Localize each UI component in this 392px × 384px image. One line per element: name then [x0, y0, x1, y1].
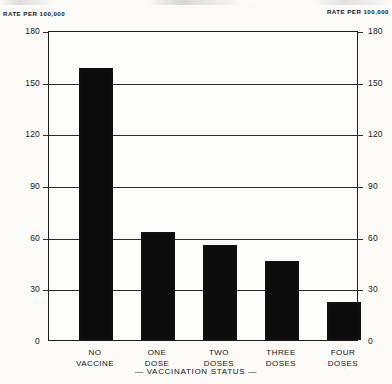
y-tick-label-left: 60 — [10, 233, 40, 243]
y-tick-label-right: 90 — [368, 181, 392, 191]
y-tick-right — [357, 187, 363, 188]
y-tick-left — [43, 290, 49, 291]
bar — [79, 68, 113, 340]
y-tick-label-right: 60 — [368, 233, 392, 243]
y-tick-left — [43, 84, 49, 85]
bar-chart: RATE PER 100,000 RATE PER 100,000 030609… — [0, 0, 392, 384]
x-category-label: THREE DOSES — [250, 348, 312, 369]
y-tick-left — [43, 135, 49, 136]
y-tick-label-left: 120 — [10, 129, 40, 139]
y-tick-label-right: 0 — [368, 336, 392, 346]
y-tick-left — [43, 32, 49, 33]
y-tick-right — [357, 239, 363, 240]
y-tick-right — [357, 290, 363, 291]
y-axis-unit-caption-right: RATE PER 100,000 — [327, 8, 389, 15]
x-category-label: TWO DOSES — [188, 348, 250, 369]
y-tick-label-left: 150 — [10, 78, 40, 88]
y-tick-label-right: 120 — [368, 129, 392, 139]
x-category-label: NO VACCINE — [64, 348, 126, 369]
plot-area — [48, 31, 358, 341]
y-tick-right — [357, 84, 363, 85]
y-axis-unit-caption-left: RATE PER 100,000 — [3, 10, 65, 17]
y-tick-right — [357, 32, 363, 33]
x-category-label: FOUR DOSES — [312, 348, 374, 369]
y-tick-label-right: 150 — [368, 78, 392, 88]
y-tick-label-left: 180 — [10, 26, 40, 36]
y-tick-right — [357, 135, 363, 136]
y-tick-left — [43, 239, 49, 240]
y-tick-left — [43, 187, 49, 188]
x-axis-title: — VACCINATION STATUS — — [0, 367, 392, 376]
bar — [203, 245, 237, 340]
scan-artifact-top — [0, 0, 392, 5]
y-tick-label-right: 30 — [368, 284, 392, 294]
y-tick-label-left: 0 — [10, 336, 40, 346]
bar — [265, 261, 299, 340]
bar — [327, 302, 361, 340]
y-tick-label-left: 90 — [10, 181, 40, 191]
y-tick-label-right: 180 — [368, 26, 392, 36]
x-category-label: ONE DOSE — [126, 348, 188, 369]
bar — [141, 232, 175, 341]
y-tick-label-left: 30 — [10, 284, 40, 294]
